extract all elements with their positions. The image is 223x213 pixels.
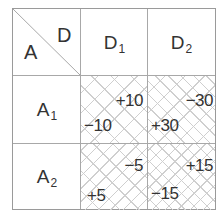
grid-line bbox=[80, 9, 81, 209]
corner-column-label: D bbox=[57, 24, 71, 47]
cell-upper-value: −30 bbox=[186, 91, 213, 111]
corner-cell: D A bbox=[13, 9, 81, 76]
row-header-base: A bbox=[37, 166, 50, 188]
grid-line bbox=[147, 9, 148, 209]
cell-a2-d2: +15 −15 bbox=[148, 144, 215, 210]
cell-lower-value: +5 bbox=[87, 186, 105, 206]
row-header-subscript: 2 bbox=[51, 176, 58, 190]
row-header-subscript: 1 bbox=[51, 109, 58, 123]
row-header-base: A bbox=[37, 99, 50, 121]
cell-lower-value: −15 bbox=[151, 184, 178, 204]
cell-a2-d1: −5 +5 bbox=[81, 144, 148, 210]
cell-lower-value: +30 bbox=[151, 116, 178, 136]
cell-a1-d2: −30 +30 bbox=[148, 76, 215, 144]
grid-line bbox=[13, 75, 215, 76]
column-header-d1: D1 bbox=[81, 9, 148, 76]
column-header-subscript: 2 bbox=[186, 42, 193, 56]
column-header-subscript: 1 bbox=[119, 42, 126, 56]
column-header-base: D bbox=[104, 32, 118, 54]
payoff-table: D A D1 D2 A1 A2 +10 −10 −30 +30 −5 +5 +1… bbox=[12, 8, 216, 210]
column-header-base: D bbox=[171, 32, 185, 54]
cell-upper-value: +10 bbox=[116, 91, 143, 111]
column-header-d2: D2 bbox=[148, 9, 215, 76]
cell-lower-value: −10 bbox=[84, 116, 111, 136]
cell-a1-d1: +10 −10 bbox=[81, 76, 148, 144]
row-header-a1: A1 bbox=[13, 76, 81, 144]
corner-row-label: A bbox=[24, 41, 37, 64]
cell-upper-value: +15 bbox=[186, 156, 213, 176]
grid-line bbox=[13, 143, 215, 144]
cell-upper-value: −5 bbox=[125, 156, 143, 176]
row-header-a2: A2 bbox=[13, 144, 81, 210]
